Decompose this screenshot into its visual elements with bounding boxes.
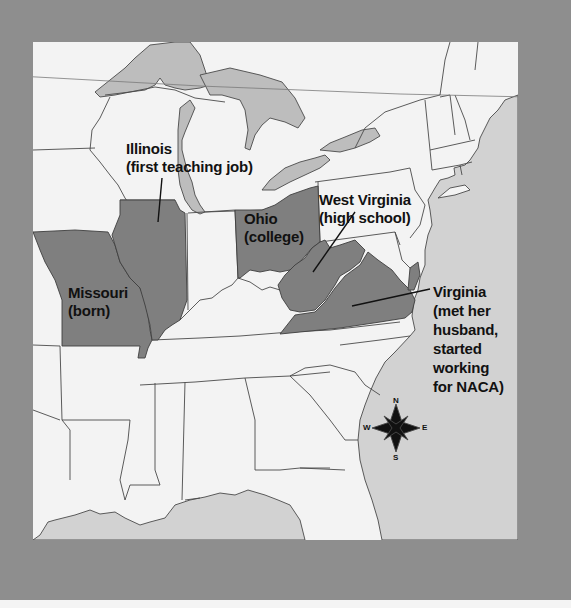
compass-north-label: N [393, 396, 399, 405]
label-virginia-note-5: for NACA) [433, 377, 504, 396]
label-missouri-note: (born) [68, 302, 128, 320]
label-west-virginia-note: (high school) [319, 209, 411, 227]
label-ohio: Ohio (college) [244, 210, 304, 246]
label-ohio-name: Ohio [244, 210, 304, 228]
label-virginia-note-2: husband, [433, 320, 504, 339]
label-virginia-note-1: (met her [433, 301, 504, 320]
label-west-virginia: West Virginia (high school) [319, 191, 411, 227]
label-illinois: Illinois (first teaching job) [126, 140, 253, 176]
compass-east-label: E [422, 423, 427, 432]
label-virginia-name: Virginia [433, 282, 504, 301]
label-missouri: Missouri (born) [68, 284, 128, 320]
compass-south-label: S [393, 453, 398, 462]
label-virginia-note-3: started [433, 339, 504, 358]
label-west-virginia-name: West Virginia [319, 191, 411, 209]
compass-west-label: W [363, 423, 371, 432]
label-missouri-name: Missouri [68, 284, 128, 302]
label-illinois-name: Illinois [126, 140, 253, 158]
label-virginia-note-4: working [433, 358, 504, 377]
label-ohio-note: (college) [244, 228, 304, 246]
label-illinois-note: (first teaching job) [126, 158, 253, 176]
label-virginia: Virginia (met her husband, started worki… [433, 282, 504, 396]
